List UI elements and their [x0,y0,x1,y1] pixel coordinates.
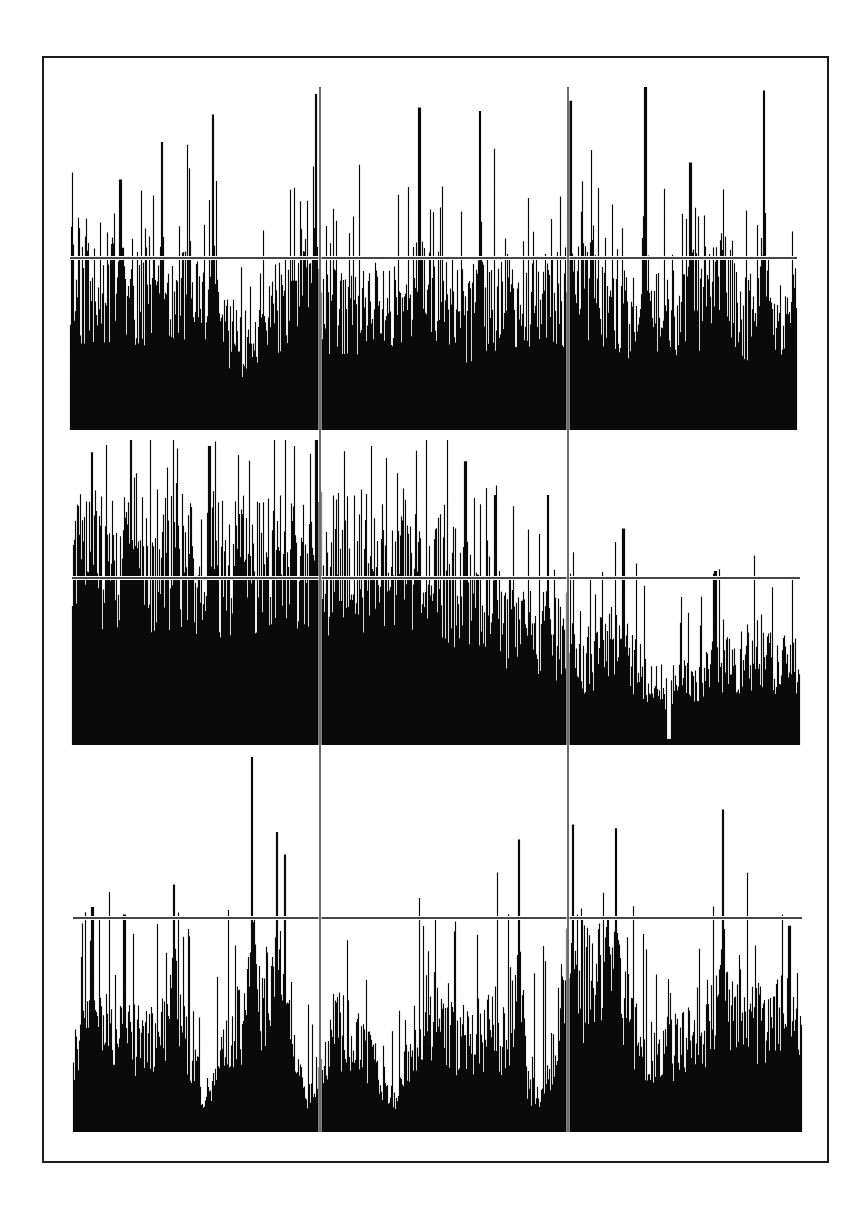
spike-bars [74,757,802,1132]
spike-histogram-figure [0,0,867,1212]
figure [0,0,867,1212]
panel-2 [72,440,800,745]
panels [70,87,802,1132]
panel-3 [73,757,802,1132]
panel-1 [70,87,797,430]
spike-bars [73,440,800,745]
